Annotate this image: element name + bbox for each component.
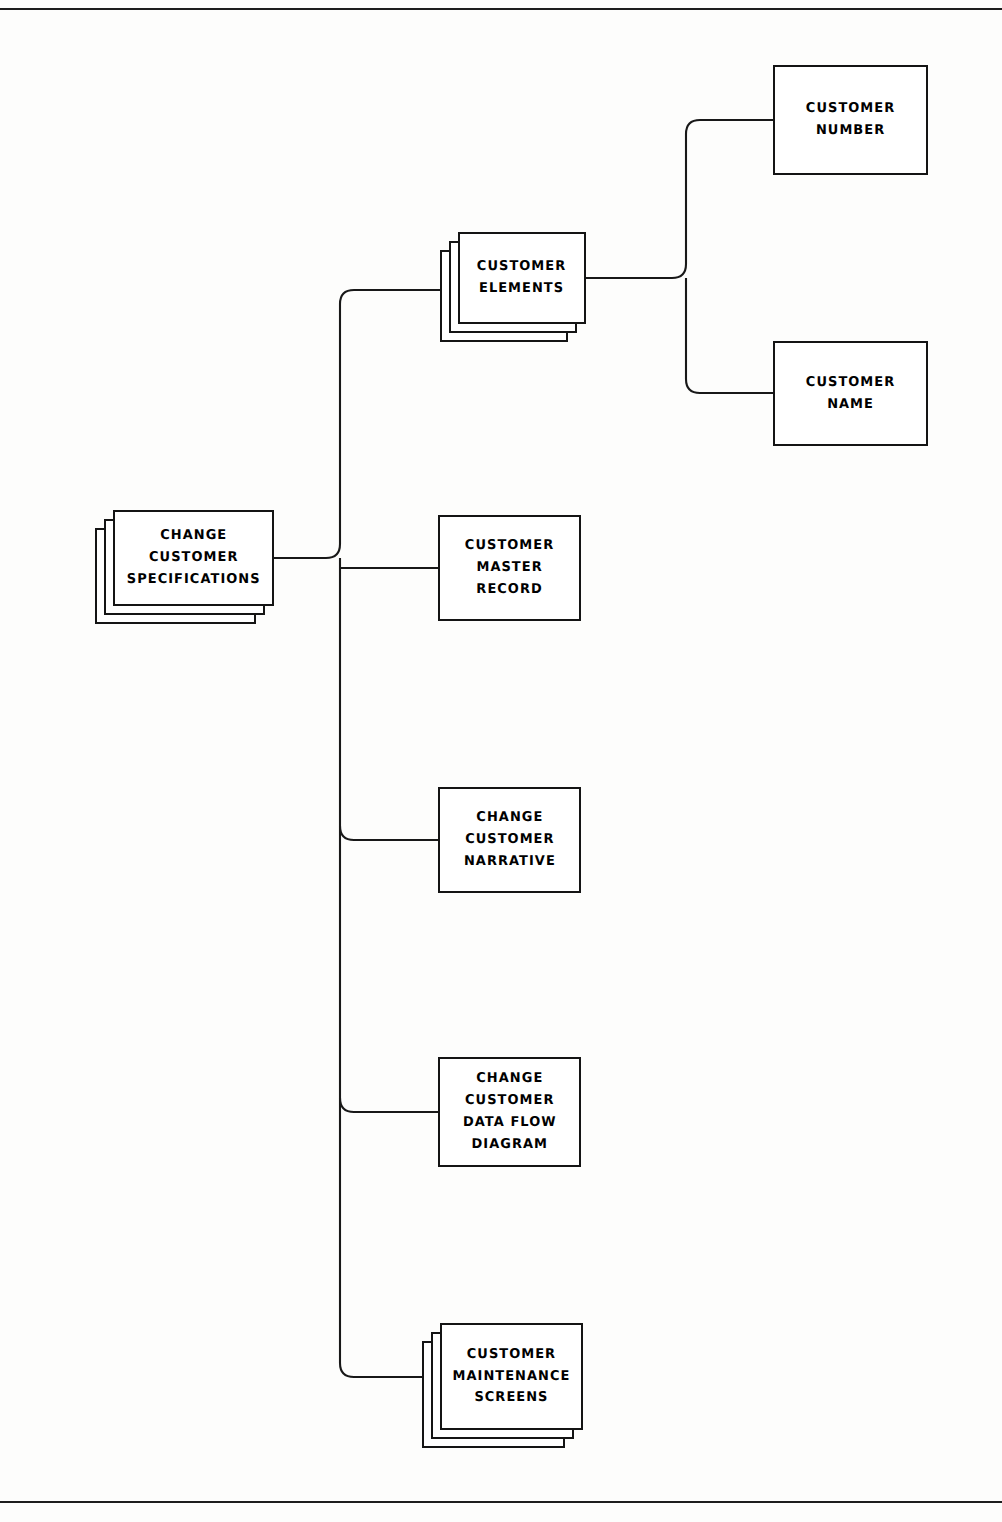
wire-main-spine bbox=[340, 558, 440, 1377]
node-face: CUSTOMER NAME bbox=[773, 341, 928, 446]
diagram-page: CHANGE CUSTOMER SPECIFICATIONS CUSTOMER … bbox=[0, 0, 1002, 1522]
connector-lines bbox=[0, 0, 1002, 1522]
node-label: CUSTOMER NUMBER bbox=[806, 98, 895, 142]
diagram-canvas: CHANGE CUSTOMER SPECIFICATIONS CUSTOMER … bbox=[0, 0, 1002, 1522]
node-label: CUSTOMER NAME bbox=[806, 372, 895, 416]
node-change-customer-data-flow-diagram[interactable]: CHANGE CUSTOMER DATA FLOW DIAGRAM bbox=[438, 1057, 581, 1167]
node-customer-name[interactable]: CUSTOMER NAME bbox=[773, 341, 928, 446]
node-face: CUSTOMER MASTER RECORD bbox=[438, 515, 581, 621]
node-label: CUSTOMER MASTER RECORD bbox=[465, 535, 554, 601]
node-change-customer-narrative[interactable]: CHANGE CUSTOMER NARRATIVE bbox=[438, 787, 581, 893]
node-face: CUSTOMER MAINTENANCE SCREENS bbox=[440, 1323, 583, 1430]
wire-branch-narrative bbox=[340, 826, 438, 840]
node-face: CHANGE CUSTOMER DATA FLOW DIAGRAM bbox=[438, 1057, 581, 1167]
node-label: CHANGE CUSTOMER DATA FLOW DIAGRAM bbox=[463, 1068, 557, 1155]
node-customer-elements[interactable]: CUSTOMER ELEMENTS bbox=[458, 232, 586, 324]
node-face: CHANGE CUSTOMER SPECIFICATIONS bbox=[113, 510, 274, 606]
node-face: CUSTOMER NUMBER bbox=[773, 65, 928, 175]
node-label: CUSTOMER MAINTENANCE SCREENS bbox=[452, 1344, 570, 1410]
wire-root-stub bbox=[274, 290, 458, 558]
wire-branch-data-flow bbox=[340, 1098, 438, 1112]
node-customer-number[interactable]: CUSTOMER NUMBER bbox=[773, 65, 928, 175]
node-change-customer-specifications[interactable]: CHANGE CUSTOMER SPECIFICATIONS bbox=[113, 510, 274, 606]
node-face: CHANGE CUSTOMER NARRATIVE bbox=[438, 787, 581, 893]
wire-elements-spine bbox=[686, 278, 773, 393]
node-label: CHANGE CUSTOMER SPECIFICATIONS bbox=[127, 525, 261, 591]
node-face: CUSTOMER ELEMENTS bbox=[458, 232, 586, 324]
wire-elements-stub bbox=[586, 120, 773, 278]
node-label: CUSTOMER ELEMENTS bbox=[477, 256, 566, 300]
node-customer-master-record[interactable]: CUSTOMER MASTER RECORD bbox=[438, 515, 581, 621]
node-label: CHANGE CUSTOMER NARRATIVE bbox=[464, 807, 556, 873]
node-customer-maintenance-screens[interactable]: CUSTOMER MAINTENANCE SCREENS bbox=[440, 1323, 583, 1430]
